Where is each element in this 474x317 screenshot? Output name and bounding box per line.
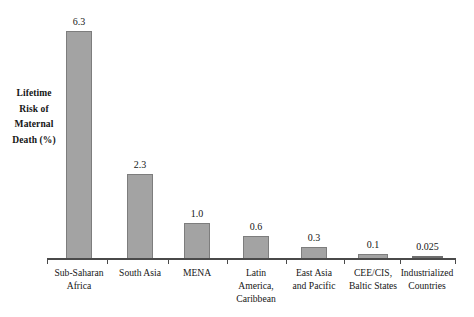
x-axis-category-label: IndustrializedCountries xyxy=(382,266,472,292)
bar[interactable] xyxy=(127,174,153,259)
x-axis-tick xyxy=(168,259,169,264)
bar-group: 0.3 xyxy=(301,0,327,259)
bar[interactable] xyxy=(184,223,210,259)
x-axis-tick xyxy=(400,259,401,264)
x-axis-tick xyxy=(344,259,345,264)
x-axis-line xyxy=(47,258,456,260)
bar-group: 0.6 xyxy=(243,0,269,259)
x-axis-tick xyxy=(107,259,108,264)
category-label-line-3: Caribbean xyxy=(211,292,301,305)
bar-group: 0.1 xyxy=(358,0,388,259)
plot-area: 6.32.31.00.60.30.10.025 xyxy=(47,0,456,259)
bar-group: 0.025 xyxy=(412,0,443,259)
bar-group: 1.0 xyxy=(184,0,210,259)
bar-value-label: 6.3 xyxy=(44,16,114,27)
bar-value-label: 1.0 xyxy=(162,208,232,219)
bar-value-label: 2.3 xyxy=(105,159,175,170)
bar-group: 2.3 xyxy=(127,0,153,259)
bar-group: 6.3 xyxy=(66,0,92,259)
bar[interactable] xyxy=(243,236,269,259)
x-axis-tick xyxy=(227,259,228,264)
x-axis-tick xyxy=(286,259,287,264)
category-label-line-1: Industrialized xyxy=(382,266,472,279)
bar-chart: Lifetime Risk of Maternal Death (%) 6.32… xyxy=(0,0,474,317)
bar-value-label: 0.6 xyxy=(221,221,291,232)
x-axis-end-tick xyxy=(455,259,456,264)
bar[interactable] xyxy=(66,31,92,259)
category-label-line-2: Africa xyxy=(34,279,124,292)
x-axis-tick xyxy=(47,259,48,264)
bar-value-label: 0.025 xyxy=(390,241,465,252)
category-label-line-2: Countries xyxy=(382,279,472,292)
